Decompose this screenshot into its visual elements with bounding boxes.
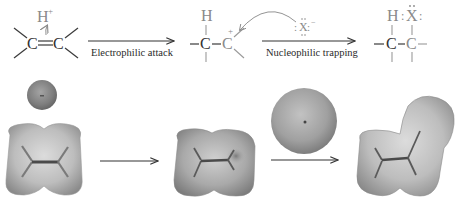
x-lone-pair-dot — [409, 5, 411, 7]
lone-pair-top-dot — [301, 18, 303, 20]
product-potential-map — [357, 96, 454, 196]
nucleophile-charge: − — [311, 18, 316, 27]
product-structure: H : X : C C — [374, 5, 427, 62]
atom-c1: C — [27, 35, 38, 52]
reactant-structure: H + C C — [14, 6, 78, 58]
lone-pair-bottom-dot — [304, 34, 306, 36]
halide-potential-map — [271, 88, 337, 154]
lone-pair-right: : — [307, 21, 310, 33]
bond-lower-left — [14, 48, 27, 58]
bond-lower-right — [234, 49, 244, 58]
lone-pair-left: : — [294, 21, 297, 33]
bond-upper-right — [65, 28, 78, 38]
x-lone-pair-left: : — [401, 9, 404, 23]
x-lone-pair-dot — [413, 5, 415, 7]
bond-upper-right — [234, 28, 244, 37]
atom-x: X — [406, 7, 418, 24]
bond-upper-left — [14, 28, 27, 38]
reaction-arrow-1: Electrophilic attack — [88, 41, 174, 58]
x-lone-pair-right: : — [419, 9, 422, 23]
arrow-label-nucleophilic-trapping: Nucleophilic trapping — [266, 47, 359, 58]
atom-c2: C — [53, 35, 64, 52]
atom-c2: C — [406, 35, 417, 52]
arrow-label-electrophilic-attack: Electrophilic attack — [91, 47, 174, 58]
mechanism-figure: H + C C Electrophilic attack H C C + : X… — [0, 0, 458, 200]
lone-pair-bottom-dot — [301, 34, 303, 36]
nucleophile-attack-arrow-icon — [240, 12, 296, 30]
carbocation-potential-map — [174, 129, 255, 196]
bond-lower-right — [65, 48, 78, 58]
reaction-arrow-2: Nucleophilic trapping — [262, 41, 359, 58]
proton-potential-map — [27, 80, 57, 110]
atom-h: H — [201, 7, 213, 24]
atom-c1: C — [386, 35, 397, 52]
nucleophile: : X : − — [294, 18, 316, 36]
curved-arrow-icon — [46, 26, 47, 35]
atom-c1: C — [200, 35, 211, 52]
intermediate-structure: H C C + — [190, 7, 244, 62]
proton-charge: + — [48, 6, 53, 16]
carbocation-charge: + — [228, 26, 233, 36]
alkene-potential-map — [6, 124, 82, 196]
lone-pair-top-dot — [304, 18, 306, 20]
atom-c2: C — [222, 35, 233, 52]
atom-h: H — [387, 7, 399, 24]
